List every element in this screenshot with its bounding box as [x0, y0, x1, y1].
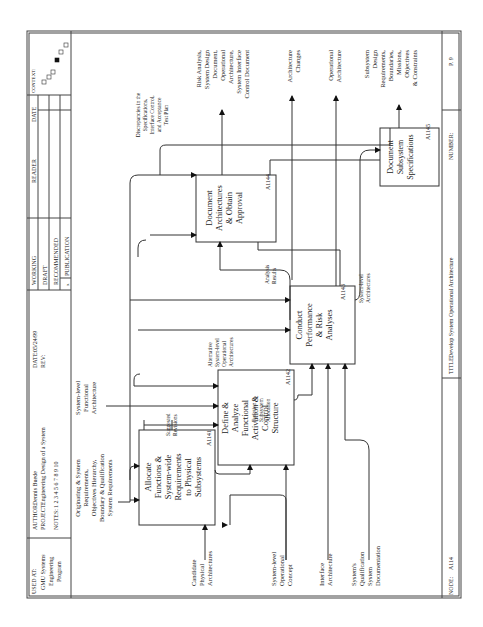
svg-text:Program: Program — [56, 561, 62, 582]
svg-text:NOTES:: NOTES: — [53, 509, 59, 530]
svg-text:Specifications,: Specifications, — [142, 98, 148, 131]
svg-text:Architectures: Architectures — [214, 185, 224, 231]
header-date-rev: DATE: 05/24/99 REV: — [32, 331, 46, 368]
svg-text:A1143: A1143 — [340, 284, 346, 300]
footer-node: NODE: A114 — [448, 557, 454, 595]
svg-text:Boundary & Qualification: Boundary & Qualification — [98, 453, 105, 522]
svg-text:Subsystem: Subsystem — [258, 397, 264, 422]
svg-text:Operational: Operational — [219, 50, 226, 81]
svg-text:USED AT:: USED AT: — [31, 568, 37, 594]
svg-text:System Design: System Design — [203, 49, 210, 89]
svg-text:NODE:: NODE: — [448, 576, 454, 595]
svg-text:Architecture: Architecture — [286, 50, 293, 83]
svg-text:Engineering: Engineering — [48, 557, 54, 586]
svg-text:A114: A114 — [448, 557, 454, 570]
svg-text:x: x — [65, 283, 70, 286]
svg-text:Objectives: Objectives — [403, 50, 410, 78]
svg-text:1 2 3 4 5 6 7 8 9 10: 1 2 3 4 5 6 7 8 9 10 — [53, 462, 59, 509]
svg-text:and Acceptance: and Acceptance — [156, 97, 162, 132]
box-a1141[interactable]: Allocate Functions & System-wide Require… — [139, 430, 215, 525]
label-operational-architecture-output: Operational Architecture — [327, 50, 342, 83]
header-author-project: AUTHOR: Dennis Buede PROJECT: Engineerin… — [32, 427, 59, 530]
svg-text:Functional: Functional — [240, 399, 250, 436]
svg-text:Architectures: Architectures — [228, 337, 234, 367]
svg-text:READER: READER — [31, 159, 37, 183]
svg-text:Architecture: Architecture — [335, 50, 342, 83]
svg-text:AUTHOR:: AUTHOR: — [32, 503, 38, 530]
svg-text:Architecture: Architecture — [90, 382, 97, 415]
svg-text:Physical: Physical — [198, 564, 205, 586]
svg-text:Architectures: Architectures — [206, 551, 213, 586]
svg-text:Interface Control,: Interface Control, — [149, 95, 155, 135]
idef0-diagram: USED AT: GMU Systems Engineering Program… — [0, 0, 483, 627]
svg-text:Subsystem: Subsystem — [363, 50, 370, 78]
label-alternative-architectures: Alternative System-level Operational Arc… — [207, 337, 234, 367]
label-candidate-architectures: Candidate Physical Architectures — [190, 551, 213, 586]
svg-text:CONTEXT:: CONTEXT: — [31, 69, 36, 93]
svg-text:P. 9: P. 9 — [448, 57, 454, 66]
svg-text:Define &: Define & — [220, 402, 230, 434]
svg-text:RECOMMENDED: RECOMMENDED — [53, 237, 59, 285]
box-a1143[interactable]: Conduct Performance & Risk Analyses A114… — [290, 284, 355, 364]
svg-text:GMU Systems: GMU Systems — [40, 554, 46, 590]
svg-text:Concept: Concept — [286, 564, 293, 586]
box-a1145[interactable]: Document Subsystem Specifications A1145 — [380, 124, 439, 186]
label-originating-requirements: Originating & System Requirements, Objec… — [74, 453, 113, 522]
svg-text:System-level: System-level — [358, 274, 364, 303]
svg-text:DATE:: DATE: — [32, 351, 38, 368]
label-qualification-documentation: System's Qualification System Documentat… — [350, 545, 381, 586]
svg-text:NUMBER:: NUMBER: — [448, 132, 454, 160]
svg-text:System-level: System-level — [214, 338, 220, 367]
svg-text:Allocate: Allocate — [143, 462, 153, 491]
svg-text:Operational: Operational — [221, 341, 227, 367]
svg-text:Operational: Operational — [327, 50, 334, 81]
svg-text:Approval: Approval — [234, 191, 244, 224]
svg-text:Analyze: Analyze — [230, 404, 240, 433]
svg-text:System-level: System-level — [270, 552, 277, 586]
label-risk-analysis-output: Risk Analysis, System Design Document, O… — [195, 49, 250, 98]
footer-number: NUMBER: P. 9 — [448, 57, 454, 160]
svg-text:A1145: A1145 — [425, 124, 431, 140]
svg-text:Architecture: Architecture — [326, 553, 333, 586]
svg-text:Function to: Function to — [251, 397, 257, 422]
svg-text:05/24/99: 05/24/99 — [32, 331, 38, 352]
svg-text:Control Document: Control Document — [243, 50, 250, 99]
svg-text:Allocation: Allocation — [265, 399, 271, 422]
svg-text:Operational: Operational — [278, 555, 285, 586]
label-functional-architecture: System-level Functional Architecture — [74, 381, 97, 415]
svg-text:DRAFT: DRAFT — [42, 265, 48, 285]
svg-text:System's: System's — [350, 563, 357, 586]
label-subsystem-requirements: Subsystem Design Requirements, Boundarie… — [363, 49, 418, 87]
svg-text:Objectives Hierarchy,: Objectives Hierarchy, — [90, 459, 97, 516]
svg-text:Alternative: Alternative — [207, 342, 213, 367]
label-interface-architecture: Interface Architecture — [318, 553, 333, 586]
footer-title: TITLE: Develop System Operational Archit… — [448, 257, 454, 374]
svg-text:Dennis Buede: Dennis Buede — [32, 471, 38, 505]
svg-text:System Requirements: System Requirements — [106, 459, 113, 516]
svg-text:REV:: REV: — [40, 354, 46, 368]
svg-text:Risk Analysis,: Risk Analysis, — [195, 50, 202, 88]
svg-text:PUBLICATION: PUBLICATION — [64, 236, 70, 276]
header-used-at: USED AT: GMU Systems Engineering Program — [31, 554, 62, 594]
svg-text:Analysis: Analysis — [264, 265, 270, 284]
svg-text:& Obtain: & Obtain — [224, 191, 234, 224]
svg-text:Structure: Structure — [270, 402, 280, 433]
svg-text:Candidate: Candidate — [190, 560, 197, 586]
svg-text:Conduct: Conduct — [294, 310, 304, 339]
svg-text:Documentation: Documentation — [374, 545, 381, 586]
svg-text:Specifications: Specifications — [406, 134, 415, 179]
svg-text:PROJECT:: PROJECT: — [40, 503, 46, 530]
svg-text:DATE: DATE — [31, 106, 37, 122]
svg-text:Architecture,: Architecture, — [227, 50, 234, 84]
svg-text:& Risk: & Risk — [314, 312, 324, 337]
svg-text:Performance: Performance — [304, 303, 314, 347]
label-discrepancies: Discrepancies in the Specifications, Int… — [135, 92, 169, 137]
svg-text:Requirements,: Requirements, — [82, 469, 89, 507]
svg-text:WORKING: WORKING — [31, 255, 37, 285]
label-operational-concept: System-level Operational Concept — [270, 552, 293, 586]
box-a1144[interactable]: Document Architectures & Obtain Approval… — [196, 174, 276, 242]
svg-text:Subsystems: Subsystems — [193, 457, 203, 497]
svg-text:Changes: Changes — [294, 50, 301, 73]
svg-text:Requirements: Requirements — [173, 453, 183, 500]
label-function-allocation: Function to Subsystem Allocation — [251, 397, 271, 422]
